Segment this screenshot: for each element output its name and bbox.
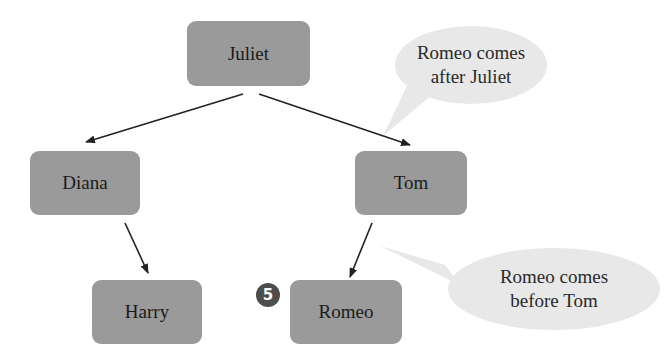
node-harry: Harry	[92, 280, 202, 344]
node-tom-label: Tom	[394, 172, 429, 194]
callout-top-line2: after Juliet	[417, 65, 525, 89]
node-tom: Tom	[355, 151, 467, 215]
callout-romeo-before-tom: Romeo comes before Tom	[448, 248, 660, 330]
node-romeo: Romeo	[290, 280, 402, 344]
edge-tom-romeo	[350, 223, 372, 277]
edge-juliet-tom	[259, 94, 410, 145]
callout-bottom-line2: before Tom	[500, 289, 608, 313]
node-diana-label: Diana	[62, 172, 107, 194]
node-harry-label: Harry	[125, 301, 169, 323]
node-diana: Diana	[30, 151, 140, 215]
callout-romeo-after-juliet: Romeo comes after Juliet	[395, 26, 547, 104]
edge-diana-harry	[125, 223, 148, 273]
callout-bottom-line1: Romeo comes	[500, 265, 608, 289]
node-juliet: Juliet	[187, 21, 310, 86]
node-juliet-label: Juliet	[228, 43, 269, 65]
step-number-badge: 5	[256, 283, 280, 307]
callout-top-line1: Romeo comes	[417, 41, 525, 65]
step-number: 5	[263, 286, 273, 304]
node-romeo-label: Romeo	[319, 301, 374, 323]
edge-juliet-diana	[86, 94, 243, 142]
